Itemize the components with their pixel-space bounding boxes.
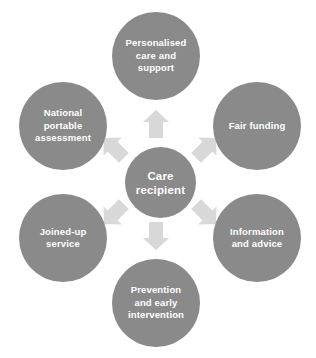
arrow-down-icon — [143, 222, 169, 250]
care-recipient-diagram: Personalised care and support Fair fundi… — [0, 0, 316, 358]
node-label: Care recipient — [130, 169, 191, 197]
node-care-recipient[interactable]: Care recipient — [125, 147, 196, 218]
node-label: Fair funding — [223, 120, 292, 133]
node-national-portable-assessment[interactable]: National portable assessment — [19, 82, 107, 170]
node-label: Information and advice — [224, 226, 290, 251]
node-label: Prevention and early intervention — [122, 284, 190, 322]
node-label: Joined-up service — [34, 226, 93, 251]
node-personalised-care-and-support[interactable]: Personalised care and support — [112, 12, 200, 100]
node-label: Personalised care and support — [120, 37, 193, 75]
node-fair-funding[interactable]: Fair funding — [213, 82, 301, 170]
arrow-up-icon — [143, 110, 169, 138]
node-information-and-advice[interactable]: Information and advice — [213, 194, 301, 282]
node-label: National portable assessment — [29, 107, 97, 145]
node-prevention-and-early-intervention[interactable]: Prevention and early intervention — [112, 259, 200, 347]
node-joined-up-service[interactable]: Joined-up service — [19, 194, 107, 282]
